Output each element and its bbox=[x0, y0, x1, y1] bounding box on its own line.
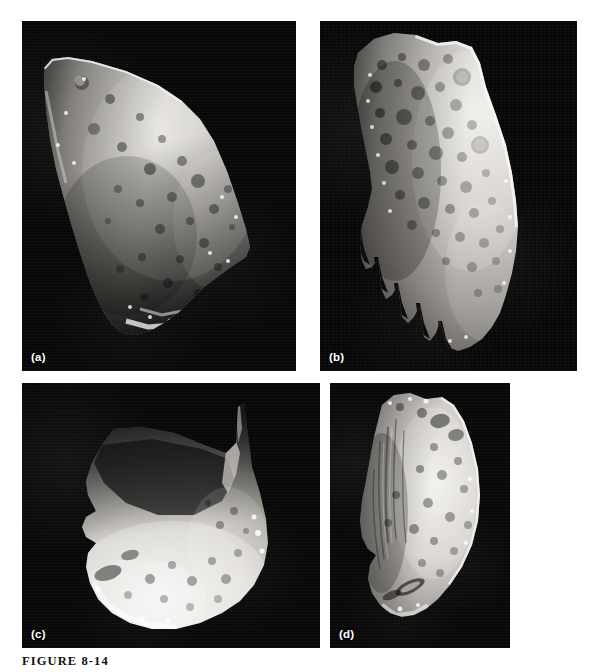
figure-caption: FIGURE 8-14 bbox=[22, 654, 109, 669]
panel-a-label: (a) bbox=[31, 351, 46, 363]
panel-a-image: (a) bbox=[22, 21, 296, 371]
asteroid-body-c bbox=[22, 383, 320, 648]
asteroid-body-d bbox=[330, 383, 510, 648]
asteroid-body-a bbox=[22, 21, 296, 371]
panel-c-label: (c) bbox=[31, 628, 46, 640]
asteroid-body-b bbox=[320, 21, 577, 371]
panel-c-image: (c) bbox=[22, 383, 320, 648]
panel-b-label: (b) bbox=[329, 351, 344, 363]
panel-d-image: (d) bbox=[330, 383, 510, 648]
figure-container: (a) bbox=[0, 0, 594, 672]
panel-d-label: (d) bbox=[339, 628, 354, 640]
panel-b-image: (b) bbox=[320, 21, 577, 371]
